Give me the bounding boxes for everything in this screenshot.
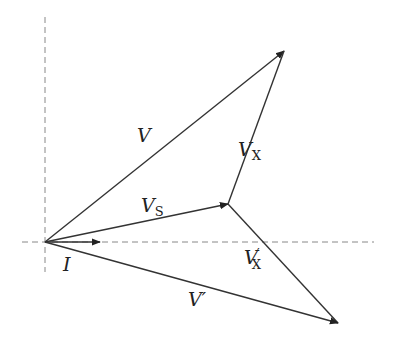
label-I: I — [62, 253, 71, 275]
phasor-diagram: V VX VS I V′X V′ — [0, 0, 394, 343]
label-VX-prime: V′X — [244, 246, 262, 272]
vector-V-prime — [45, 242, 338, 323]
label-VX: VX — [238, 138, 262, 163]
vector-VS — [45, 204, 228, 242]
label-V: V — [137, 124, 153, 146]
label-VS: VS — [141, 194, 164, 219]
label-V-prime: V′ — [188, 288, 207, 310]
